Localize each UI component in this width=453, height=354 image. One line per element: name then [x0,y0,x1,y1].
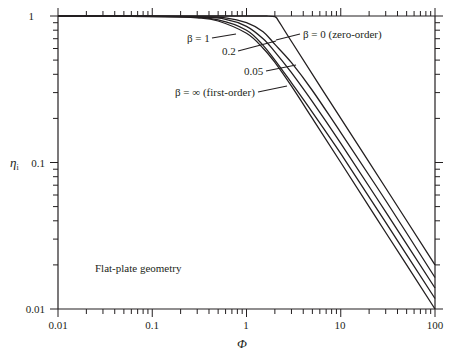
curve-series-0 [58,16,435,265]
label-beta-inf: β = ∞ (first-order) [175,86,255,99]
curve-series-1 [58,16,435,278]
x-tick-label-1: 1 [243,319,249,331]
x-tick-label-0.01: 0.01 [48,319,67,331]
label-beta-zero: β = 0 (zero-order) [303,28,382,41]
curve-series-2 [58,16,435,288]
label-beta-0.2: 0.2 [222,45,236,57]
y-tick-label-1: 1 [29,10,35,22]
x-axis-label: Φ [237,336,247,351]
x-tick-label-100: 100 [427,319,444,331]
leader-beta-inf [258,86,287,92]
label-beta-0.05: 0.05 [244,65,264,77]
leader-beta-one [212,34,236,38]
geometry-annotation: Flat-plate geometry [95,262,182,274]
y-tick-label-0.01: 0.01 [26,303,45,315]
y-axis-label: ηi [10,155,19,172]
x-tick-label-0.1: 0.1 [145,319,159,331]
curve-series-3 [58,16,435,299]
label-beta-one: β = 1 [187,32,210,44]
x-tick-label-10: 10 [335,319,347,331]
y-tick-label-0.1: 0.1 [31,157,45,169]
effectiveness-factor-chart: 1 0.1 0.01 0.01 0.1 1 10 100 Φ ηi Flat-p… [0,0,453,354]
